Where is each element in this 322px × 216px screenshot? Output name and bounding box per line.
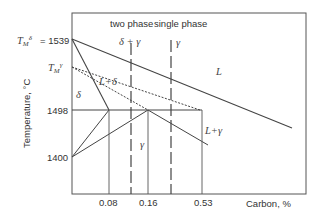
l-delta-region-label: L+δ (98, 76, 118, 87)
delta-gamma-boundary-2 (72, 110, 148, 157)
gamma-top-label: γ (176, 37, 181, 48)
delta-region-label: δ (76, 89, 82, 100)
tick-1539: = 1539 (40, 35, 69, 46)
x-axis-label: Carbon, % (246, 198, 291, 209)
liquid-region-label: L (215, 66, 222, 77)
two-phase-label: two phase (110, 18, 153, 29)
tick-0.53: 0.53 (194, 197, 213, 208)
tick-1498: 1498 (47, 105, 68, 116)
tick-0.08: 0.08 (99, 197, 118, 208)
plot-frame (72, 13, 306, 194)
tick-0.16: 0.16 (139, 197, 158, 208)
delta-gamma-label: δ + γ (119, 36, 141, 47)
tick-1400: 1400 (47, 152, 68, 163)
single-phase-label: single phase (154, 18, 207, 29)
y-axis-label: Temperature, °C (21, 79, 32, 148)
gamma-region-label: γ (140, 139, 145, 150)
gamma-solidus-line (148, 110, 208, 145)
delta-gamma-boundary-1 (72, 110, 109, 157)
tm-gamma-label: TMγ (48, 61, 63, 75)
phase-diagram: TMδ = 1539 TMγ 1498 1400 Temperature, °C… (0, 0, 322, 216)
l-gamma-region-label: L+γ (204, 125, 223, 136)
tm-delta-label: TMδ (17, 34, 33, 48)
